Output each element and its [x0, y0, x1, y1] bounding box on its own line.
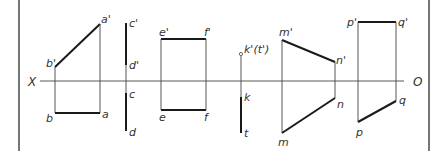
label-c: c — [129, 88, 135, 101]
label-k: k — [244, 91, 251, 104]
label-q: q — [399, 94, 406, 107]
label-m: m — [278, 136, 289, 149]
label-t: t — [244, 127, 249, 140]
segment-cd: c' d' c d — [126, 17, 139, 139]
label-n-prime: n' — [336, 54, 346, 67]
label-q-prime: q' — [398, 16, 408, 29]
top-view-m-n — [282, 98, 335, 133]
label-p-prime: p' — [346, 16, 357, 29]
segment-kt: k'(t') k t — [239, 43, 269, 140]
label-d-prime: d' — [129, 59, 139, 72]
front-view-m-n — [282, 40, 335, 62]
label-a: a — [102, 108, 109, 121]
label-d: d — [129, 126, 137, 139]
label-k-prime-t-prime: k'(t') — [244, 43, 269, 56]
label-f: f — [204, 111, 210, 124]
axis-label-x: X — [27, 75, 37, 89]
projection-diagram: X O a' b' a b c' d' c d e' f' e f k'(t' — [0, 0, 439, 151]
label-c-prime: c' — [129, 17, 138, 30]
label-b: b — [46, 112, 53, 125]
label-n: n — [337, 98, 344, 111]
label-f-prime: f' — [204, 26, 211, 39]
segment-mn: m' n' m n — [278, 26, 346, 149]
segment-pq: p' q' p q — [346, 16, 408, 139]
label-p: p — [355, 126, 363, 139]
top-view-p-q — [358, 101, 396, 122]
front-view-a-b — [55, 24, 100, 67]
segment-ab: a' b' a b — [46, 13, 111, 125]
label-e: e — [159, 111, 166, 124]
segment-ef: e' f' e f — [159, 26, 211, 124]
label-b-prime: b' — [46, 57, 56, 70]
label-m-prime: m' — [279, 26, 293, 39]
axis-label-o: O — [413, 75, 422, 89]
label-a-prime: a' — [101, 13, 111, 26]
front-view-point-k-t — [239, 52, 242, 55]
label-e-prime: e' — [159, 26, 169, 39]
